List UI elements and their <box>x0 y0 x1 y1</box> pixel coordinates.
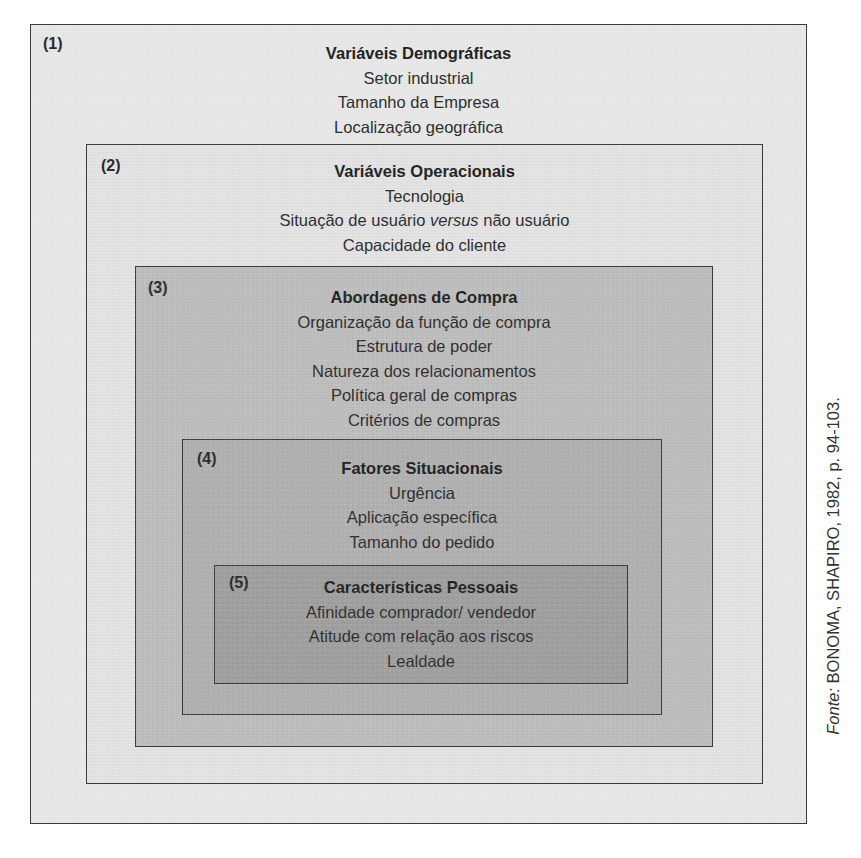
box-5-item: Lealdade <box>215 649 627 674</box>
box-5-title: Características Pessoais <box>215 575 627 600</box>
box-4-item: Urgência <box>183 481 661 506</box>
box-5-item: Afinidade comprador/ vendedor <box>215 600 627 625</box>
box-3-item: Política geral de compras <box>136 383 712 408</box>
box-4-content: Fatores Situacionais Urgência Aplicação … <box>183 456 661 554</box>
box-personal-characteristics: (5) Características Pessoais Afinidade c… <box>214 565 628 684</box>
source-label: Fonte: <box>824 688 842 735</box>
box-4-item: Aplicação específica <box>183 505 661 530</box>
box-1-content: Variáveis Demográficas Setor industrial … <box>31 41 806 139</box>
box-4-title: Fatores Situacionais <box>183 456 661 481</box>
figure-caption-cropped <box>190 852 670 858</box>
box-demographic-variables: (1) Variáveis Demográficas Setor industr… <box>30 24 807 824</box>
box-5-content: Características Pessoais Afinidade compr… <box>215 575 627 673</box>
source-text: BONOMA, SHAPIRO, 1982, p. 94-103. <box>824 397 842 688</box>
box-2-title: Variáveis Operacionais <box>87 159 762 184</box>
box-3-item: Natureza dos relacionamentos <box>136 359 712 384</box>
versus-italic: versus <box>430 211 479 229</box>
box-3-item: Critérios de compras <box>136 408 712 433</box>
box-operational-variables: (2) Variáveis Operacionais Tecnologia Si… <box>86 144 763 784</box>
box-1-item: Setor industrial <box>31 66 806 91</box>
box-situational-factors: (4) Fatores Situacionais Urgência Aplica… <box>182 439 662 715</box>
box-2-content: Variáveis Operacionais Tecnologia Situaç… <box>87 159 762 257</box>
box-5-item: Atitude com relação aos riscos <box>215 624 627 649</box>
box-2-item: Situação de usuário versus não usuário <box>87 208 762 233</box>
box-3-item: Organização da função de compra <box>136 310 712 335</box>
box-purchasing-approaches: (3) Abordagens de Compra Organização da … <box>135 266 713 747</box>
box-3-content: Abordagens de Compra Organização da funç… <box>136 285 712 432</box>
box-3-item: Estrutura de poder <box>136 334 712 359</box>
box-4-item: Tamanho do pedido <box>183 530 661 555</box>
box-3-title: Abordagens de Compra <box>136 285 712 310</box>
source-note: Fonte: BONOMA, SHAPIRO, 1982, p. 94-103. <box>824 397 843 735</box>
box-2-item: Tecnologia <box>87 184 762 209</box>
box-1-item: Tamanho da Empresa <box>31 90 806 115</box>
box-2-item: Capacidade do cliente <box>87 233 762 258</box>
box-1-item: Localização geográfica <box>31 115 806 140</box>
box-1-title: Variáveis Demográficas <box>31 41 806 66</box>
